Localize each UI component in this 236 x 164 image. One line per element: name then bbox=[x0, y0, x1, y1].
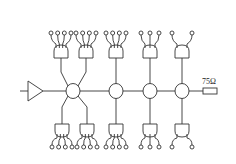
branch-line bbox=[61, 58, 68, 86]
schematic-canvas bbox=[0, 0, 236, 164]
terminal-icon bbox=[117, 31, 121, 35]
branch-line bbox=[62, 96, 68, 124]
terminal-icon bbox=[81, 31, 85, 35]
terminal-icon bbox=[49, 31, 53, 35]
outlet-lead bbox=[51, 35, 56, 48]
terminal-icon bbox=[139, 145, 143, 149]
terminal-icon bbox=[170, 31, 174, 35]
terminal-icon bbox=[111, 145, 115, 149]
terminal-icon bbox=[190, 31, 194, 35]
outlet-lead bbox=[141, 35, 145, 48]
tap-splitter-icon bbox=[143, 84, 157, 99]
branch-line bbox=[78, 58, 86, 86]
terminal-icon bbox=[111, 31, 115, 35]
amplifier-icon bbox=[28, 81, 43, 101]
terminator-label: 75Ω bbox=[202, 78, 216, 86]
tap-splitter-icon bbox=[175, 84, 189, 99]
terminal-icon bbox=[87, 31, 91, 35]
terminal-icon bbox=[148, 145, 152, 149]
terminal-icon bbox=[170, 145, 174, 149]
terminal-icon bbox=[75, 145, 79, 149]
outlet-lead bbox=[172, 35, 177, 48]
terminal-icon bbox=[124, 145, 128, 149]
terminal-icon bbox=[104, 31, 108, 35]
outlet-lead bbox=[121, 35, 126, 48]
terminal-icon bbox=[190, 145, 194, 149]
terminal-icon bbox=[148, 31, 152, 35]
outlet-lead bbox=[155, 35, 159, 48]
terminal-icon bbox=[157, 31, 161, 35]
terminal-icon bbox=[88, 145, 92, 149]
outlet-lead bbox=[91, 35, 96, 48]
terminal-icon bbox=[117, 145, 121, 149]
outlet-lead bbox=[106, 35, 111, 48]
terminal-icon bbox=[95, 145, 99, 149]
terminal-icon bbox=[139, 31, 143, 35]
terminal-icon bbox=[69, 31, 73, 35]
outlet-lead bbox=[76, 35, 81, 48]
branch-line bbox=[78, 96, 87, 124]
terminal-icon bbox=[50, 145, 54, 149]
terminal-icon bbox=[82, 145, 86, 149]
terminal-icon bbox=[70, 145, 74, 149]
distribution-diagram: 75Ω bbox=[0, 0, 236, 164]
terminal-icon bbox=[94, 31, 98, 35]
terminal-icon bbox=[56, 31, 60, 35]
outlet-lead bbox=[66, 35, 71, 48]
terminal-icon bbox=[74, 31, 78, 35]
outlet-lead bbox=[187, 35, 192, 48]
terminator-resistor-icon bbox=[203, 88, 217, 94]
terminal-icon bbox=[104, 145, 108, 149]
terminal-icon bbox=[157, 145, 161, 149]
tap-splitter-icon bbox=[109, 84, 123, 99]
terminal-icon bbox=[63, 145, 67, 149]
terminal-icon bbox=[62, 31, 66, 35]
terminal-icon bbox=[57, 145, 61, 149]
terminal-icon bbox=[124, 31, 128, 35]
